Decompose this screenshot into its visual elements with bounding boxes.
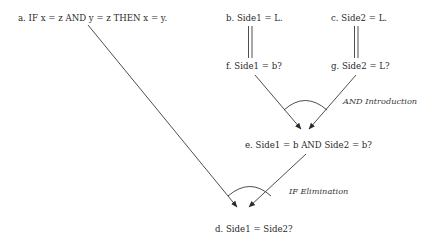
proof-tree-diagram: a. IF x = z AND y = z THEN x = y. b. Sid… bbox=[0, 0, 434, 244]
and-introduction-arc bbox=[284, 101, 327, 111]
node-c: c. Side2 = L. bbox=[331, 13, 387, 23]
rule-and-introduction: AND Introduction bbox=[342, 96, 417, 106]
if-elimination-arc bbox=[228, 187, 271, 197]
arrow-e-to-d bbox=[249, 154, 306, 207]
rule-if-elimination: IF Elimination bbox=[288, 186, 348, 196]
node-b: b. Side1 = L. bbox=[226, 13, 283, 23]
node-e: e. Side1 = b AND Side2 = b? bbox=[245, 140, 372, 150]
arrow-f-to-e bbox=[255, 75, 301, 129]
node-g: g. Side2 = L? bbox=[331, 61, 390, 71]
node-d: d. Side1 = Side2? bbox=[215, 224, 293, 234]
arrow-a-to-d bbox=[88, 25, 237, 207]
double-line-b-f bbox=[249, 26, 253, 58]
double-line-c-g bbox=[355, 26, 359, 58]
node-f: f. Side1 = b? bbox=[226, 61, 282, 71]
node-a: a. IF x = z AND y = z THEN x = y. bbox=[18, 13, 167, 23]
